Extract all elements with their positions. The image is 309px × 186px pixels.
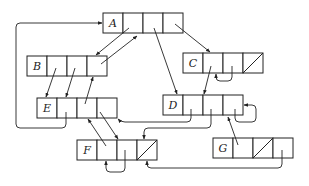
linked-structure-diagram: ABCDEFG: [0, 0, 309, 186]
pointer-cell: [223, 53, 243, 73]
edge-b-to-a: [101, 36, 137, 64]
pointer-cell: [183, 95, 203, 115]
pointer-cell: [223, 95, 243, 115]
pointer-cell: [97, 98, 117, 118]
node-label: B: [32, 60, 41, 73]
pointer-cell: [233, 138, 253, 158]
pointer-cell: [47, 56, 67, 76]
node-label: F: [82, 144, 91, 157]
pointer-cell: [203, 53, 223, 73]
pointer-cell: [163, 13, 183, 33]
pointer-cell: [273, 138, 293, 158]
pointer-cell: [57, 98, 77, 118]
pointer-cell: [117, 140, 137, 160]
node-g: G: [213, 138, 293, 158]
node-label: A: [108, 17, 117, 30]
pointer-cell: [77, 98, 97, 118]
node-a: A: [103, 13, 183, 33]
node-label: E: [42, 102, 51, 115]
node-label: C: [189, 57, 198, 70]
node-f: F: [77, 140, 157, 160]
node-d: D: [163, 95, 243, 115]
pointer-cell: [203, 95, 223, 115]
pointer-cell: [97, 140, 117, 160]
pointer-cell: [87, 56, 107, 76]
node-e: E: [37, 98, 117, 118]
node-label: D: [168, 99, 178, 112]
edge-a-to-d: [154, 28, 177, 94]
node-c: C: [183, 53, 263, 73]
node-b: B: [27, 56, 107, 76]
pointer-cell: [67, 56, 87, 76]
edge-a-to-c: [175, 24, 210, 52]
node-label: G: [219, 142, 228, 155]
pointer-cell: [143, 13, 163, 33]
